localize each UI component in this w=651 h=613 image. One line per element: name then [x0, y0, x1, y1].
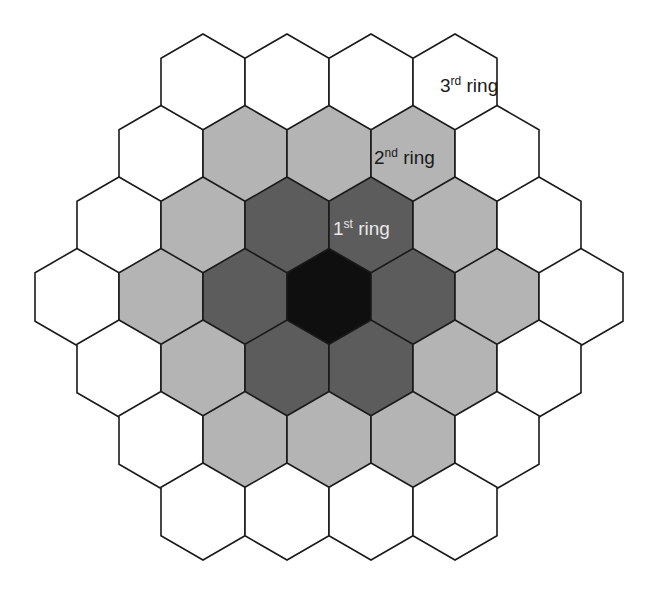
hexagon-ring-diagram: 3rd ring 2nd ring 1st ring: [0, 0, 651, 613]
ring2-label: 2nd ring: [374, 146, 435, 168]
ring1-label: 1st ring: [333, 217, 390, 239]
ring3-label: 3rd ring: [440, 74, 498, 96]
hexagon-grid: [35, 34, 623, 560]
